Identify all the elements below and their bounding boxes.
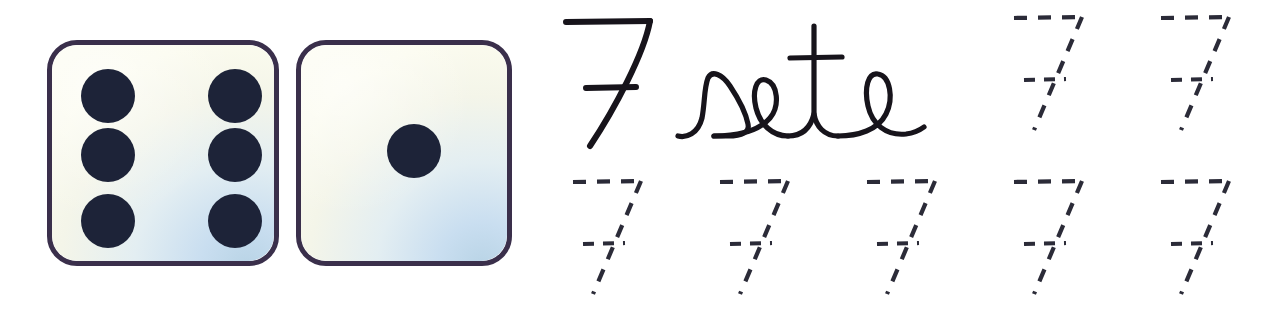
pip-bottom-left xyxy=(81,194,135,248)
model-numeral-7 xyxy=(552,6,682,156)
model-word-sete xyxy=(672,14,932,164)
trace-7-r2c2[interactable] xyxy=(712,168,808,308)
trace-7-r2c5[interactable] xyxy=(1153,168,1249,308)
trace-7-r2c3[interactable] xyxy=(859,168,955,308)
die-six[interactable] xyxy=(47,40,279,266)
trace-7-r2c4[interactable] xyxy=(1006,168,1102,308)
trace-7-r1c1[interactable] xyxy=(1006,4,1102,144)
pip-top-left xyxy=(81,69,135,123)
trace-7-r1c2[interactable] xyxy=(1153,4,1249,144)
worksheet-page xyxy=(0,0,1275,315)
pip-center xyxy=(387,124,441,178)
die-one[interactable] xyxy=(296,40,512,266)
trace-7-r2c1[interactable] xyxy=(565,168,661,308)
pip-middle-right xyxy=(208,128,262,182)
pip-bottom-right xyxy=(208,194,262,248)
pip-top-right xyxy=(208,69,262,123)
pip-middle-left xyxy=(81,128,135,182)
